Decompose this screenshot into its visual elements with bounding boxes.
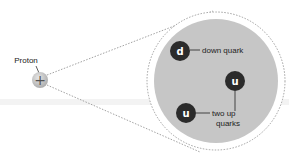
up-quark-right-letter: u [231, 76, 238, 87]
proton-diagram: + Proton d down quark u u two up quarks [0, 0, 289, 161]
plus-icon: + [34, 72, 46, 88]
down-quark-letter: d [176, 46, 183, 57]
up-quarks-label-line2: quarks [216, 119, 240, 128]
up-quark-left-letter: u [182, 108, 189, 119]
down-quark-label: down quark [202, 46, 244, 55]
up-quarks-label-line1: two up [212, 109, 236, 118]
proton-label: Proton [14, 56, 38, 65]
